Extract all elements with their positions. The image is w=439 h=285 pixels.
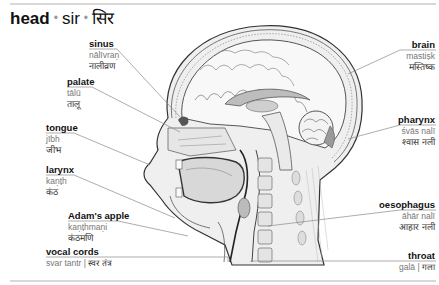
label-tongue: tongue jībh जीभ: [46, 122, 78, 156]
label-palate: palate tālū तालू: [67, 76, 94, 110]
label-oesophagus: oesophagus āhār nalī आहार नली: [379, 199, 435, 233]
label-throat: throat galā | गला: [399, 250, 435, 273]
label-vocal-cords: vocal cords svar tantr | स्वर तंत्र: [46, 246, 112, 269]
label-sinus: sinus nālīvraṇ नालीव्रण: [89, 38, 119, 72]
label-larynx: larynx kaṇṭh कंठ: [46, 164, 74, 198]
label-adams-apple: Adam's apple kaṇṭhmaṇi कंठमणि: [68, 210, 129, 244]
label-pharynx: pharynx śvās nalī श्वास नली: [398, 114, 435, 148]
label-brain: brain mastiṣk मस्तिष्क: [406, 39, 435, 73]
oral-cavity: [178, 158, 244, 203]
